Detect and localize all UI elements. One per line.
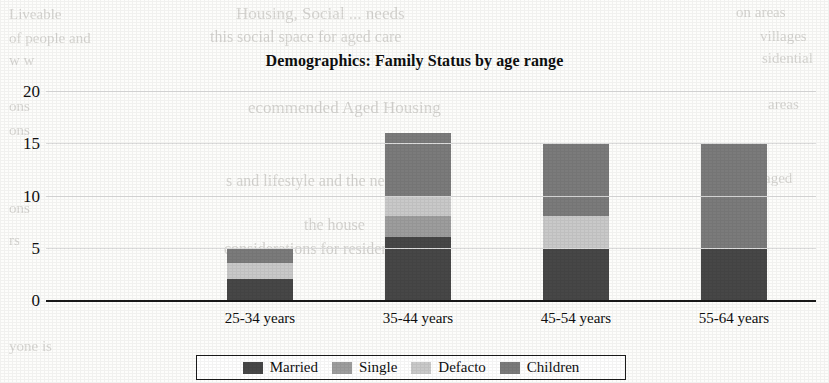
x-axis-category-label: 45-54 years xyxy=(486,310,666,327)
legend-label: Single xyxy=(359,360,397,375)
legend-label: Children xyxy=(527,360,580,375)
x-axis-line xyxy=(46,300,816,302)
y-axis-tick-label: 10 xyxy=(0,187,40,204)
bar-stack[interactable] xyxy=(543,143,609,300)
x-axis-category-label: 25-34 years xyxy=(170,310,350,327)
bar-segment[interactable] xyxy=(227,248,293,264)
legend-swatch-icon xyxy=(243,362,263,374)
legend-label: Married xyxy=(270,360,318,375)
bar-segment[interactable] xyxy=(385,133,451,196)
x-axis-category-label: 35-44 years xyxy=(328,310,508,327)
y-axis-tick-label: 15 xyxy=(0,135,40,152)
chart-legend: MarriedSingleDefactoChildren xyxy=(196,355,626,380)
bar-segment[interactable] xyxy=(385,196,451,217)
y-axis-tick-label: 20 xyxy=(0,83,40,100)
bar-stack[interactable] xyxy=(385,133,451,300)
gridline xyxy=(46,248,816,249)
stacked-bar-chart: Demographics: Family Status by age range… xyxy=(0,0,829,383)
bar-stack[interactable] xyxy=(701,143,767,300)
legend-swatch-icon xyxy=(500,362,520,374)
legend-swatch-icon xyxy=(411,362,431,374)
bar-segment[interactable] xyxy=(543,248,609,300)
gridline xyxy=(46,143,816,144)
legend-item[interactable]: Children xyxy=(500,360,580,375)
chart-title: Demographics: Family Status by age range xyxy=(0,52,829,70)
legend-label: Defacto xyxy=(438,360,485,375)
gridline xyxy=(46,91,816,92)
bar-segment[interactable] xyxy=(227,263,293,279)
x-axis-category-label: 55-64 years xyxy=(644,310,824,327)
legend-item[interactable]: Married xyxy=(243,360,318,375)
legend-item[interactable]: Defacto xyxy=(411,360,485,375)
y-axis-tick-label: 0 xyxy=(0,292,40,309)
bar-segment[interactable] xyxy=(701,248,767,300)
bar-segment[interactable] xyxy=(227,279,293,300)
plot-area: 05101520 xyxy=(46,85,829,305)
bar-stack[interactable] xyxy=(227,248,293,300)
y-axis-tick-label: 5 xyxy=(0,239,40,256)
chart-page: Housing, Social ... needsLiveableon area… xyxy=(0,0,829,383)
bar-segment[interactable] xyxy=(543,143,609,216)
bar-series-container xyxy=(46,85,816,300)
bar-segment[interactable] xyxy=(543,216,609,247)
bar-segment[interactable] xyxy=(385,216,451,237)
gridline xyxy=(46,196,816,197)
legend-swatch-icon xyxy=(332,362,352,374)
legend-item[interactable]: Single xyxy=(332,360,397,375)
bar-segment[interactable] xyxy=(385,237,451,300)
